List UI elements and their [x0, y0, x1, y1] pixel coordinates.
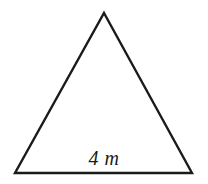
base-length-label: 4 m [89, 148, 120, 168]
geometry-figure: 4 m [0, 0, 208, 184]
